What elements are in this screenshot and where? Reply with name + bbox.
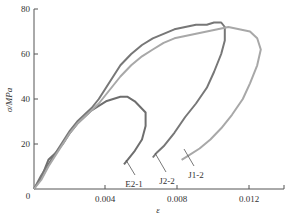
stress-strain-chart: 80 60 40 20 0 σ/MPa 0.004 0.008 0.012 ε … [0, 0, 289, 217]
j1-2-label: J1-2 [188, 170, 204, 180]
e2-1-leader-line [126, 160, 135, 175]
y-axis-title: σ/MPa [4, 87, 14, 112]
x-tick-label-0.012: 0.012 [239, 194, 259, 204]
origin-label: 0 [26, 191, 31, 201]
y-tick-label-80: 80 [21, 4, 31, 14]
y-tick-label-40: 40 [21, 94, 31, 104]
series-j1-2-line [34, 27, 261, 189]
j2-2-label: J2-2 [159, 176, 175, 186]
y-tick-label-60: 60 [21, 49, 31, 59]
x-axis: 0.004 0.008 0.012 ε [34, 185, 284, 215]
e2-1-label: E2-1 [125, 179, 143, 189]
x-tick-label-0.008: 0.008 [167, 194, 188, 204]
y-tick-label-20: 20 [21, 139, 31, 149]
x-tick-label-0.004: 0.004 [95, 194, 116, 204]
x-axis-title: ε [156, 205, 160, 215]
curve-labels: E2-1 J2-2 J1-2 [125, 149, 204, 189]
y-axis: 80 60 40 20 0 σ/MPa [4, 4, 38, 201]
series-j2-2-line [34, 23, 225, 190]
j2-2-leader-line [155, 153, 166, 172]
series-layer [34, 23, 261, 190]
